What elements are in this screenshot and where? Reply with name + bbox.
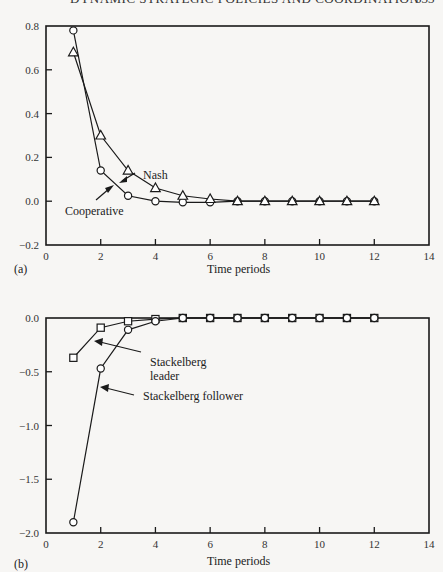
- circle-marker-icon: [234, 314, 241, 321]
- circle-marker-icon: [70, 519, 77, 526]
- x-tick-label: 12: [369, 538, 380, 550]
- y-tick-label: −2.0: [19, 527, 39, 539]
- series-line-cooperative: [73, 30, 374, 202]
- circle-marker-icon: [124, 192, 131, 199]
- circle-marker-icon: [261, 314, 268, 321]
- y-tick-label: 0.0: [25, 195, 39, 207]
- y-tick-label: 0.6: [25, 64, 39, 76]
- x-tick-label: 2: [98, 250, 104, 262]
- circle-marker-icon: [343, 314, 350, 321]
- triangle-marker-icon: [151, 183, 161, 192]
- series-line-stackelberg-leader: [73, 318, 374, 358]
- y-tick-label: −1.5: [19, 473, 39, 485]
- arrow-icon-cooperative: [96, 185, 114, 200]
- x-tick-label: 6: [207, 538, 213, 550]
- x-tick-label: 14: [424, 250, 436, 262]
- plot-frame: [46, 318, 429, 533]
- x-tick-label: 10: [314, 250, 326, 262]
- series-line-nash: [73, 52, 374, 201]
- circle-marker-icon: [316, 314, 323, 321]
- x-axis-label-a: Time periods: [207, 262, 271, 276]
- annotation-follower: Stackelberg follower: [143, 389, 243, 403]
- circle-marker-icon: [97, 365, 104, 372]
- x-tick-label: 8: [262, 250, 268, 262]
- annotation-nash: Nash: [143, 168, 168, 182]
- y-tick-label: −1.0: [19, 420, 39, 432]
- plot-area-b: 024681012140.0−0.5−1.0−1.5−2.0: [19, 312, 435, 550]
- square-marker-icon: [70, 354, 77, 361]
- chart-panel-b: 024681012140.0−0.5−1.0−1.5−2.0 Stackelbe…: [14, 312, 435, 571]
- x-axis-label-b: Time periods: [207, 554, 271, 568]
- circle-marker-icon: [179, 314, 186, 321]
- plot-area-a: 024681012140.80.60.40.20.0−0.2: [19, 20, 435, 262]
- x-tick-label: 2: [98, 538, 104, 550]
- annotation-leader-line1: Stackelberg: [150, 355, 206, 369]
- circle-marker-icon: [207, 314, 214, 321]
- y-tick-label: −0.2: [19, 239, 39, 251]
- y-tick-label: −0.5: [19, 366, 39, 378]
- square-marker-icon: [97, 324, 104, 331]
- triangle-marker-icon: [96, 131, 106, 140]
- circle-marker-icon: [97, 167, 104, 174]
- x-tick-label: 8: [262, 538, 268, 550]
- figure: 024681012140.80.60.40.20.0−0.2 Nash Coop…: [0, 0, 443, 572]
- circle-marker-icon: [289, 314, 296, 321]
- panel-label-a: (a): [14, 262, 27, 276]
- y-tick-label: 0.8: [25, 20, 39, 32]
- y-tick-label: 0.0: [25, 312, 39, 324]
- x-tick-label: 0: [43, 250, 49, 262]
- x-tick-label: 4: [153, 538, 159, 550]
- x-tick-label: 6: [207, 250, 213, 262]
- x-tick-label: 0: [43, 538, 49, 550]
- annotation-cooperative: Cooperative: [65, 204, 124, 218]
- circle-marker-icon: [124, 326, 131, 333]
- square-marker-icon: [124, 318, 131, 325]
- x-tick-label: 12: [369, 250, 380, 262]
- y-tick-label: 0.2: [25, 151, 39, 163]
- chart-panel-a: 024681012140.80.60.40.20.0−0.2 Nash Coop…: [14, 20, 435, 276]
- x-tick-label: 10: [314, 538, 326, 550]
- circle-marker-icon: [152, 198, 159, 205]
- arrow-icon-follower: [100, 384, 134, 395]
- annotation-leader-line2: leader: [150, 369, 179, 383]
- circle-marker-icon: [70, 27, 77, 34]
- circle-marker-icon: [371, 314, 378, 321]
- series-line-stackelberg-follower: [73, 318, 374, 522]
- x-tick-label: 4: [153, 250, 159, 262]
- x-tick-label: 14: [424, 538, 436, 550]
- panel-label-b: (b): [14, 557, 28, 571]
- y-tick-label: 0.4: [25, 108, 39, 120]
- circle-marker-icon: [152, 318, 159, 325]
